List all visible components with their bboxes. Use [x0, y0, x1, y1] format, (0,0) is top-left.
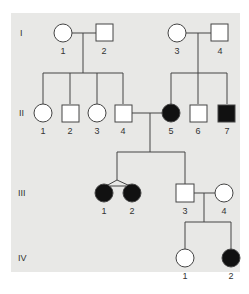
individual-I3 [168, 24, 186, 42]
pedigree-chart: I II III IV 1 2 3 4 1 2 3 4 5 6 [0, 0, 249, 294]
label-I3: 3 [174, 46, 179, 56]
individual-II1 [34, 104, 52, 122]
individual-III3 [176, 184, 194, 202]
individual-II2 [62, 105, 79, 122]
label-III3: 3 [182, 206, 187, 216]
label-I1: 1 [60, 46, 65, 56]
individuals [34, 24, 240, 267]
label-II3: 3 [94, 126, 99, 136]
label-IV2: 2 [228, 271, 233, 281]
generation-label-II: II [19, 108, 24, 118]
label-II6: 6 [195, 126, 200, 136]
individual-IV2 [222, 249, 240, 267]
label-III2: 2 [129, 206, 134, 216]
individual-II4 [115, 105, 132, 122]
label-IV1: 1 [182, 271, 187, 281]
label-III1: 1 [101, 206, 106, 216]
connector-lines [43, 33, 231, 249]
individual-II6 [190, 105, 207, 122]
generation-label-IV: IV [18, 253, 27, 263]
individual-II5 [162, 104, 180, 122]
individual-II7 [218, 105, 235, 122]
individual-III4 [215, 184, 233, 202]
label-II7: 7 [224, 126, 229, 136]
label-II4: 4 [120, 126, 125, 136]
label-I2: 2 [101, 46, 106, 56]
individual-III2 [123, 184, 141, 202]
label-II5: 5 [168, 126, 173, 136]
individual-II3 [88, 104, 106, 122]
individual-I4 [211, 24, 228, 41]
label-II1: 1 [40, 126, 45, 136]
label-III4: 4 [221, 206, 226, 216]
label-I4: 4 [217, 46, 222, 56]
individual-IV1 [176, 249, 194, 267]
individual-I2 [96, 24, 113, 41]
generation-label-III: III [18, 188, 26, 198]
generation-label-I: I [20, 28, 23, 38]
individual-III1 [95, 184, 113, 202]
label-II2: 2 [67, 126, 72, 136]
individual-I1 [54, 24, 72, 42]
